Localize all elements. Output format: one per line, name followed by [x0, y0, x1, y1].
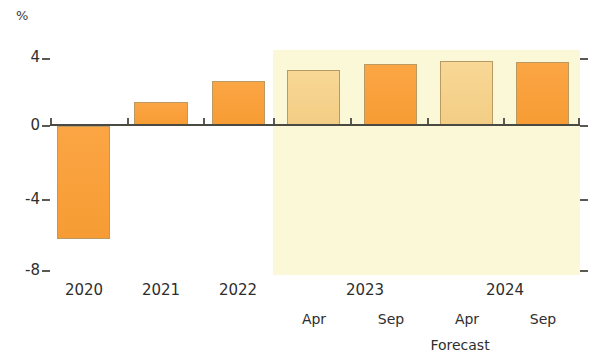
- x-label-2023: 2023: [334, 281, 396, 299]
- y-tick-mark-minus-4: [42, 199, 50, 201]
- forecast-caption: Forecast: [400, 337, 520, 353]
- bar-2022: [212, 81, 265, 126]
- x-label-2023-apr: Apr: [283, 311, 345, 327]
- x-label-2024-sep: Sep: [512, 311, 574, 327]
- y-tick-mark-right-minus-8: [580, 270, 588, 272]
- x-label-2021: 2021: [130, 281, 192, 299]
- y-tick-mark-right-4: [580, 58, 588, 60]
- y-tick-label-0: 0: [6, 116, 40, 134]
- x-tick-mark-0: [50, 118, 52, 124]
- x-tick-mark-2: [203, 118, 205, 124]
- x-label-2020: 2020: [53, 281, 115, 299]
- y-tick-mark-0: [42, 125, 50, 127]
- y-tick-mark-right-minus-4: [580, 199, 588, 201]
- y-tick-mark-4: [42, 58, 50, 60]
- y-tick-label-minus-8: -8: [6, 261, 40, 279]
- x-label-2024: 2024: [474, 281, 536, 299]
- bar-2023-apr: [287, 70, 340, 126]
- bar-2020: [57, 126, 110, 239]
- x-tick-mark-1: [127, 118, 129, 124]
- x-tick-mark-3: [273, 118, 275, 124]
- x-tick-mark-7: [578, 118, 580, 124]
- x-label-2023-sep: Sep: [360, 311, 422, 327]
- x-tick-mark-6: [503, 118, 505, 124]
- x-label-2022: 2022: [207, 281, 269, 299]
- zero-axis-line: [50, 124, 580, 126]
- bar-2021: [134, 102, 188, 126]
- bar-2023-sep: [364, 64, 417, 126]
- bar-2024-sep: [516, 62, 569, 126]
- x-label-2024-apr: Apr: [436, 311, 498, 327]
- bar-chart: % 4 0 -4 -8 2020 2021 2022 2023 2024 Apr…: [0, 0, 591, 360]
- y-tick-mark-right-0: [580, 125, 588, 127]
- x-tick-mark-4: [350, 118, 352, 124]
- x-tick-mark-5: [427, 118, 429, 124]
- y-tick-label-minus-4: -4: [6, 190, 40, 208]
- bar-2024-apr: [440, 61, 493, 126]
- y-tick-label-4: 4: [6, 48, 40, 66]
- y-axis-unit-label: %: [16, 8, 28, 23]
- y-tick-mark-minus-8: [42, 270, 50, 272]
